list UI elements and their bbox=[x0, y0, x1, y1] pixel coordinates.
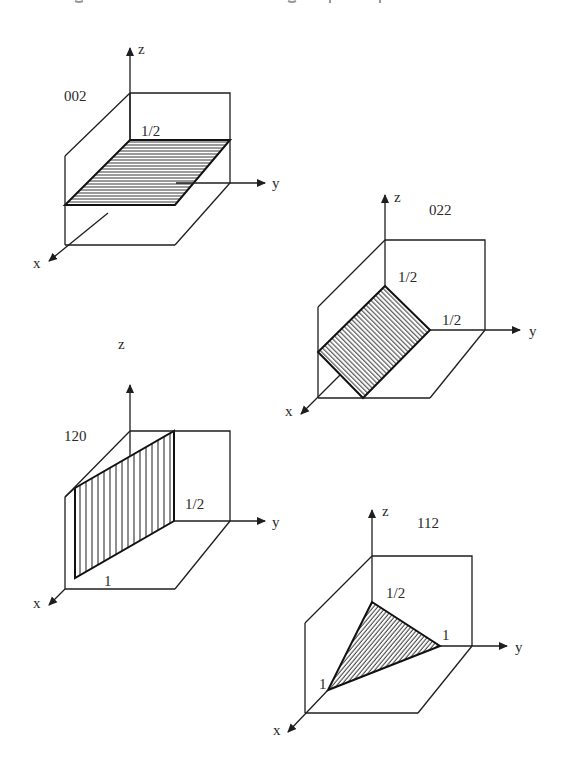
y-axis-label: y bbox=[529, 323, 537, 339]
miller-index-label: 022 bbox=[429, 202, 452, 218]
z-axis-label: z bbox=[118, 336, 125, 352]
y-axis-label: y bbox=[515, 639, 523, 655]
miller-index-label: 002 bbox=[64, 88, 87, 104]
x-axis bbox=[49, 589, 65, 605]
panel-120: z y x 120 1 1/2 bbox=[33, 336, 280, 611]
z-axis-label: z bbox=[394, 189, 401, 205]
miller-index-label: 112 bbox=[417, 515, 439, 531]
z-axis-label: z bbox=[138, 41, 145, 57]
z-axis-label: z bbox=[382, 503, 389, 519]
x-axis-label: x bbox=[285, 403, 293, 419]
plane-022 bbox=[318, 286, 430, 398]
intercept-label-y: 1/2 bbox=[185, 496, 204, 512]
intercept-label-z: 1/2 bbox=[386, 585, 405, 601]
intercept-label-x: 1 bbox=[319, 676, 327, 692]
plane-120 bbox=[75, 431, 174, 578]
panel-022: z y x 022 1/2 1/2 bbox=[285, 189, 537, 419]
x-axis bbox=[288, 690, 328, 732]
x-axis bbox=[49, 213, 108, 261]
clipped-text-remnant bbox=[75, 0, 380, 3]
x-axis-label: x bbox=[33, 255, 41, 271]
y-axis-label: y bbox=[272, 175, 280, 191]
intercept-label-y: 1 bbox=[442, 627, 450, 643]
panel-002: z y x 002 1/2 bbox=[33, 41, 280, 271]
crystal-planes-figure: z y x 002 1/2 z y x 022 1/2 1/2 bbox=[0, 0, 564, 776]
x-axis-label: x bbox=[33, 595, 41, 611]
intercept-label-y: 1/2 bbox=[442, 312, 461, 328]
plane-112 bbox=[328, 602, 440, 690]
miller-index-label: 120 bbox=[64, 428, 87, 444]
x-axis bbox=[301, 375, 340, 414]
intercept-label-z: 1/2 bbox=[398, 269, 417, 285]
x-axis-label: x bbox=[273, 722, 281, 738]
intercept-label-z: 1/2 bbox=[141, 123, 160, 139]
y-axis-label: y bbox=[272, 514, 280, 530]
plane-002 bbox=[65, 140, 230, 205]
panel-112: z y x 112 1/2 1 1 bbox=[273, 503, 523, 738]
intercept-label-x: 1 bbox=[104, 573, 112, 589]
